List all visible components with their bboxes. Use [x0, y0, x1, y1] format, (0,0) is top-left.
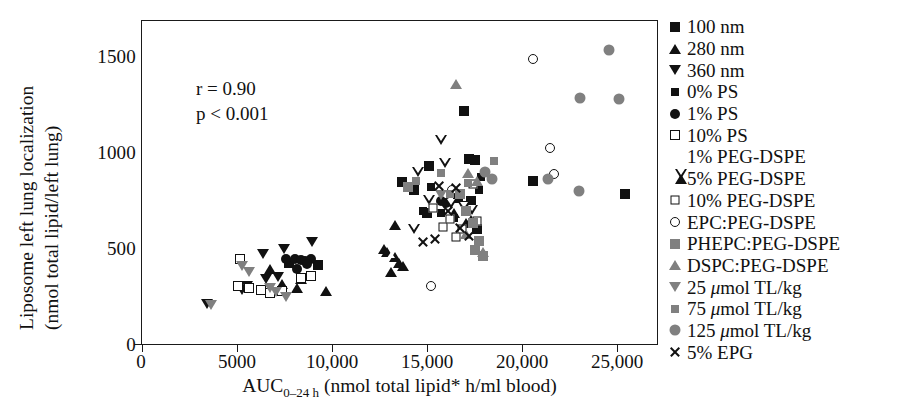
x-tick-label-5000: 5000: [205, 352, 269, 371]
legend-item[interactable]: EPC:PEG-DSPE: [664, 211, 914, 233]
legend-item[interactable]: 5% EPG: [664, 341, 914, 363]
cross-icon: [429, 233, 441, 245]
triangle-up-icon: [291, 283, 303, 293]
y-tick-label-1000: 1000: [66, 143, 136, 162]
y-tick-mark-0: [134, 344, 141, 346]
triangle-up-gray-icon: [477, 247, 489, 257]
statistics-annotation: r = 0.90 p < 0.001: [196, 76, 268, 126]
triangle-down-gray-icon: [205, 300, 217, 310]
square-open-icon: [244, 283, 254, 293]
square-open-icon: [664, 126, 686, 144]
triangle-up-icon: [389, 220, 401, 230]
legend-item-label: 25 μmol TL/kg: [686, 278, 802, 297]
square-gray-icon: [461, 206, 471, 216]
pvalue-text: p < 0.001: [196, 101, 268, 126]
triangle-up-open-icon: [397, 244, 409, 271]
circle-gray-icon: [575, 92, 586, 103]
diamond-gray-icon: [464, 179, 472, 187]
legend-item-label: 280 nm: [686, 39, 745, 58]
circle-gray-icon: [664, 321, 686, 339]
legend-item-label: EPC:PEG-DSPE: [686, 213, 816, 232]
legend-item[interactable]: 0% PS: [664, 81, 914, 103]
legend-item-label: DSPC:PEG-DSPE: [686, 256, 829, 275]
legend-item[interactable]: 100 nm: [664, 16, 914, 38]
square-icon: [664, 18, 686, 36]
legend-item[interactable]: 360 nm: [664, 59, 914, 81]
circle-icon: [281, 254, 291, 264]
legend-item[interactable]: 5% PEG-DSPE: [664, 168, 914, 190]
square-open-icon: [296, 273, 306, 283]
x-axis-label-prefix: AUC: [242, 375, 283, 396]
legend-item-label: 75 μmol TL/kg: [686, 299, 802, 318]
legend-item[interactable]: 280 nm: [664, 38, 914, 60]
x-tick-label-15000: 15,000: [389, 352, 465, 371]
triangle-down-icon: [257, 249, 269, 259]
correlation-text: r = 0.90: [196, 76, 268, 101]
triangle-up-gray-icon: [471, 176, 483, 186]
triangle-down-gray-icon: [243, 267, 255, 277]
legend-item[interactable]: 75 μmol TL/kg: [664, 298, 914, 320]
legend-item[interactable]: PHEPC:PEG-DSPE: [664, 233, 914, 255]
square-open-icon: [306, 271, 316, 281]
legend-item[interactable]: 1% PEG-DSPE: [664, 146, 914, 168]
y-tick-label-1500: 1500: [66, 47, 136, 66]
legend-item[interactable]: 25 μmol TL/kg: [664, 276, 914, 298]
circle-open-icon: [426, 281, 436, 291]
triangle-down-gray-icon: [664, 278, 686, 296]
legend-item-label: 0% PS: [686, 82, 738, 101]
diamond-gray-icon: [490, 157, 498, 165]
y-axis-label-line1: Liposome left lung localization: [16, 86, 38, 330]
triangle-up-icon: [664, 40, 686, 58]
circle-icon: [302, 259, 312, 269]
circle-open-icon: [664, 213, 686, 231]
circle-gray-icon: [573, 186, 584, 197]
x-axis-label-suffix: (nmol total lipid* h/ml blood): [319, 375, 557, 396]
square-icon: [620, 189, 630, 199]
legend-item-label: 5% PEG-DSPE: [686, 169, 806, 188]
x-tick-label-25000: 25,000: [579, 352, 655, 371]
cross-icon: [433, 180, 445, 192]
legend-item[interactable]: DSPC:PEG-DSPE: [664, 255, 914, 277]
triangle-down-gray-icon: [280, 292, 292, 302]
cross-icon: [664, 343, 686, 361]
square-icon: [470, 155, 480, 165]
legend-item[interactable]: 125 μmol TL/kg: [664, 320, 914, 342]
diamond-open-icon: [438, 222, 447, 231]
diamond-gray-icon: [437, 169, 445, 177]
diamond-gray-icon: [412, 177, 420, 185]
triangle-down-icon: [260, 274, 272, 284]
circle-gray-icon: [487, 173, 498, 184]
legend-item-label: 360 nm: [686, 61, 745, 80]
legend-item-label: PHEPC:PEG-DSPE: [686, 234, 840, 253]
circle-open-icon: [528, 54, 538, 64]
legend-item[interactable]: 1% PS: [664, 103, 914, 125]
legend-item-label: 1% PEG-DSPE: [686, 147, 806, 166]
triangle-down-icon: [306, 237, 318, 247]
legend-item-label: 125 μmol TL/kg: [686, 321, 811, 340]
triangle-down-icon: [278, 244, 290, 254]
legend-item-label: 10% PEG-DSPE: [686, 191, 815, 210]
legend-item-label: 5% EPG: [686, 343, 753, 362]
x-tick-label-20000: 20,000: [484, 352, 560, 371]
triangle-down-icon: [664, 61, 686, 79]
triangle-up-open-icon: [664, 148, 686, 166]
diamond-icon: [664, 83, 686, 101]
circle-gray-icon: [604, 44, 615, 55]
legend-item[interactable]: 10% PS: [664, 124, 914, 146]
circle-gray-icon: [613, 93, 624, 104]
figure-scatter-plot: Liposome left lung localization (nmol to…: [0, 0, 916, 413]
cross-icon: [417, 236, 429, 248]
plot-area: [142, 21, 657, 344]
legend-item[interactable]: 10% PEG-DSPE: [664, 190, 914, 212]
circle-icon: [664, 105, 686, 123]
legend-item-label: 10% PS: [686, 126, 748, 145]
diamond-gray-icon: [664, 300, 686, 318]
plot-frame: [141, 20, 658, 345]
square-icon: [528, 176, 538, 186]
square-icon: [424, 161, 434, 171]
square-gray-icon: [468, 218, 478, 228]
legend-item-label: 1% PS: [686, 104, 738, 123]
cross-icon: [450, 182, 462, 194]
square-open-icon: [233, 281, 243, 291]
circle-open-icon: [545, 143, 555, 153]
